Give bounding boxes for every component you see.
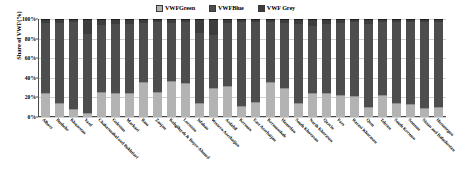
y-tick-label: 60% xyxy=(25,55,36,61)
x-tick-label: Zanjan xyxy=(153,118,166,131)
bar-series-container xyxy=(38,19,446,117)
legend-item-vwfblue: VWFBlue xyxy=(209,5,244,12)
bar[interactable] xyxy=(167,19,176,117)
bar-segment-vwfblue xyxy=(195,33,204,104)
legend-label-vwfgreen: VWFGreen xyxy=(165,5,195,11)
bar-segment-vwfblue xyxy=(139,23,148,82)
bar-segment-vwfgreen xyxy=(406,104,415,117)
bar[interactable] xyxy=(97,19,106,117)
bar[interactable] xyxy=(308,19,317,117)
bar-segment-vwfgreen xyxy=(223,86,232,117)
bar[interactable] xyxy=(336,19,345,117)
bar-segment-vwfgrey xyxy=(195,19,204,33)
bar[interactable] xyxy=(83,19,92,117)
legend-swatch-icon-vwfgreen xyxy=(156,5,163,12)
bar[interactable] xyxy=(406,19,415,117)
bar-segment-vwfblue xyxy=(167,23,176,81)
bar-segment-vwfblue xyxy=(294,24,303,103)
bar-segment-vwfblue xyxy=(97,25,106,92)
bar-segment-vwfgreen xyxy=(167,81,176,117)
x-tick-label: Ilam xyxy=(139,118,149,128)
bar[interactable] xyxy=(364,19,373,117)
bar-segment-vwfblue xyxy=(406,22,415,104)
bar-segment-vwfgreen xyxy=(41,93,50,117)
bar-segment-vwfgreen xyxy=(195,103,204,117)
bar-segment-vwfgreen xyxy=(97,92,106,117)
bar[interactable] xyxy=(69,19,78,117)
bar-segment-vwfgreen xyxy=(111,93,120,117)
bar-segment-vwfgreen xyxy=(364,107,373,117)
bar-segment-vwfblue xyxy=(434,22,443,107)
bar-segment-vwfgreen xyxy=(55,103,64,117)
bar-segment-vwfblue xyxy=(125,24,134,94)
bar[interactable] xyxy=(378,19,387,117)
bar-segment-vwfgreen xyxy=(392,103,401,117)
bar-segment-vwfblue xyxy=(392,22,401,103)
bar-segment-vwfblue xyxy=(420,22,429,108)
bar[interactable] xyxy=(251,19,260,117)
bar-segment-vwfblue xyxy=(251,22,260,102)
legend-label-vwfgrey: VWF Grey xyxy=(267,5,295,11)
bar-segment-vwfblue xyxy=(237,22,246,106)
bar[interactable] xyxy=(322,19,331,117)
bar-segment-vwfgreen xyxy=(237,106,246,117)
x-tick-label: Tehran xyxy=(378,118,391,131)
x-tick-label: Qom xyxy=(364,118,374,128)
bar-segment-vwfblue xyxy=(55,23,64,103)
bar-segment-vwfblue xyxy=(364,24,373,107)
y-tick-label: 0% xyxy=(28,114,36,120)
bar-segment-vwfblue xyxy=(308,26,317,93)
bar-segment-vwfblue xyxy=(223,23,232,86)
bar-segment-vwfgreen xyxy=(209,88,218,117)
chart-legend: VWFGreen VWFBlue VWF Grey xyxy=(0,2,451,14)
bar[interactable] xyxy=(111,19,120,117)
y-tick-label: 20% xyxy=(25,94,36,100)
bar[interactable] xyxy=(209,19,218,117)
bar-segment-vwfgreen xyxy=(153,92,162,117)
bar[interactable] xyxy=(139,19,148,117)
bar-segment-vwfgreen xyxy=(280,88,289,117)
bar-segment-vwfblue xyxy=(181,22,190,83)
bar[interactable] xyxy=(434,19,443,117)
bar[interactable] xyxy=(195,19,204,117)
bar-segment-vwfgrey xyxy=(209,19,218,35)
bar-segment-vwfgreen xyxy=(181,83,190,117)
bar-segment-vwfblue xyxy=(41,23,50,94)
bar[interactable] xyxy=(125,19,134,117)
bar[interactable] xyxy=(392,19,401,117)
bar[interactable] xyxy=(223,19,232,117)
plot-area: 0%20%40%60%80%100% xyxy=(38,19,446,117)
x-tick-label: Bushehr xyxy=(55,118,70,133)
bar-segment-vwfgreen xyxy=(139,82,148,117)
bar-segment-vwfgreen xyxy=(378,95,387,117)
bar-segment-vwfgreen xyxy=(336,95,345,117)
x-tick-label: Alborz xyxy=(41,118,54,131)
bar[interactable] xyxy=(153,19,162,117)
bar[interactable] xyxy=(266,19,275,117)
bar[interactable] xyxy=(41,19,50,117)
y-tick-label: 80% xyxy=(25,36,36,42)
bar[interactable] xyxy=(350,19,359,117)
bar-segment-vwfblue xyxy=(280,23,289,88)
bar-segment-vwfgreen xyxy=(420,108,429,117)
legend-item-vwfgreen: VWFGreen xyxy=(156,5,195,12)
bar[interactable] xyxy=(55,19,64,117)
bar[interactable] xyxy=(294,19,303,117)
legend-swatch-icon-vwfblue xyxy=(209,5,216,12)
bar[interactable] xyxy=(181,19,190,117)
bar-segment-vwfgreen xyxy=(322,93,331,118)
bar-segment-vwfblue xyxy=(69,22,78,109)
bar[interactable] xyxy=(237,19,246,117)
x-tick-label: Fars xyxy=(336,118,345,127)
bar[interactable] xyxy=(420,19,429,117)
bar[interactable] xyxy=(280,19,289,117)
bar-segment-vwfgreen xyxy=(350,96,359,117)
bar-segment-vwfblue xyxy=(266,22,275,82)
y-axis-title: Share of VWF(%) xyxy=(15,0,22,81)
bar-segment-vwfgreen xyxy=(434,107,443,117)
bar-segment-vwfgreen xyxy=(266,82,275,117)
x-tick-label: Markazi xyxy=(125,118,140,133)
bar-segment-vwfgreen xyxy=(125,93,134,117)
y-tick-label: 40% xyxy=(25,75,36,81)
